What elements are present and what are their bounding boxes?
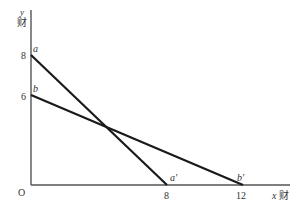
line-bb-prime xyxy=(31,95,243,185)
label-a-prime: a′ xyxy=(170,172,178,183)
x-tick-8: 8 xyxy=(164,190,169,201)
label-b: b xyxy=(33,83,38,94)
diagram: y 财 x 财 O 8 6 8 12 a a′ b b′ xyxy=(0,0,308,206)
x-axis-label-suffix: 财 xyxy=(279,189,289,201)
origin-label: O xyxy=(18,187,25,198)
line-aa-prime xyxy=(31,55,167,185)
label-a: a xyxy=(33,43,38,54)
x-tick-12: 12 xyxy=(236,190,246,201)
y-tick-6: 6 xyxy=(21,91,26,102)
y-axis-label-var: y xyxy=(19,7,24,17)
x-axis-label-var: x xyxy=(271,190,277,201)
y-tick-8: 8 xyxy=(21,50,26,61)
y-axis-label-suffix: 财 xyxy=(17,16,27,28)
label-b-prime: b′ xyxy=(237,172,245,183)
